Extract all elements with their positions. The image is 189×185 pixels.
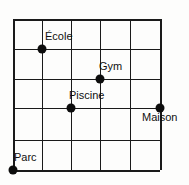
map-point-label: Gym	[99, 61, 122, 72]
grid-map-figure: ÉcoleGymPiscineMaisonParc	[0, 0, 189, 185]
map-point-label: École	[45, 31, 73, 42]
map-labels-layer: ÉcoleGymPiscineMaisonParc	[0, 0, 189, 185]
map-point-label: Maison	[142, 112, 177, 123]
map-point-label: Piscine	[69, 90, 104, 101]
map-point-label: Parc	[14, 152, 37, 163]
